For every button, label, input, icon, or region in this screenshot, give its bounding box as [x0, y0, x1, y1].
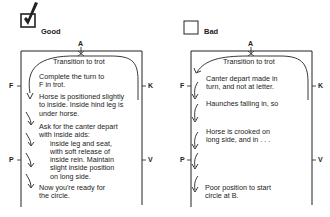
- good-step-1: Complete the turn to F in trot.: [39, 73, 104, 90]
- bad-step-3: Horse is crooked on long side, and in . …: [206, 128, 270, 145]
- bad-letter-f: F: [180, 82, 184, 89]
- good-letter-a: A: [78, 40, 83, 47]
- bad-letter-a: A: [248, 40, 253, 47]
- good-letter-k: K: [148, 82, 153, 89]
- bad-transition: Transition to trot: [223, 58, 275, 66]
- bad-letter-p: P: [180, 156, 185, 163]
- bad-step-2: Haunches falling in, so: [206, 100, 278, 108]
- checked-box-icon: [21, 2, 38, 27]
- bad-step-4: Poor position to start circle at B.: [205, 184, 271, 201]
- empty-box-icon: [184, 21, 198, 34]
- good-step-2: Horse is positioned slightly to inside. …: [39, 93, 124, 118]
- bad-step-1: Canter depart made in turn, and not at l…: [206, 75, 278, 92]
- good-step-3: Ask for the canter depart with inside ai…: [39, 123, 118, 181]
- bad-letter-k: K: [318, 82, 323, 89]
- good-letter-p: P: [9, 156, 14, 163]
- good-heading: Good: [41, 27, 61, 36]
- good-transition: Transition to trot: [53, 58, 105, 66]
- bad-letter-v: V: [318, 156, 323, 163]
- bad-heading: Bad: [204, 27, 218, 36]
- good-step-4: Now you're ready for the circle.: [39, 184, 105, 201]
- good-letter-f: F: [9, 82, 13, 89]
- good-letter-v: V: [148, 156, 153, 163]
